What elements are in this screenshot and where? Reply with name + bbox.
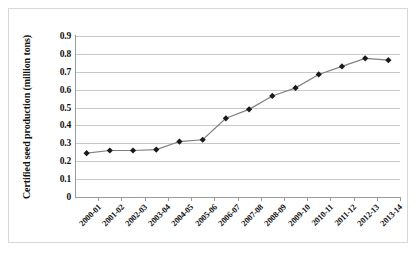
x-axis-tick-label: 2009-10	[285, 202, 311, 228]
x-axis-tick-label: 2007-08	[239, 202, 265, 228]
x-axis-tick-label: 2000-01	[77, 202, 103, 228]
y-axis-tick-label: 0.9	[60, 31, 71, 41]
x-axis-tick-label: 2006-07	[216, 202, 242, 228]
gridline	[75, 161, 400, 162]
x-axis-tick	[330, 197, 331, 201]
x-axis-tick	[261, 197, 262, 201]
y-axis-tick-label: 0	[66, 192, 71, 202]
y-axis-line	[75, 35, 76, 198]
x-axis-tick-label: 2012-13	[355, 202, 381, 228]
gridline	[75, 90, 400, 91]
gridline	[75, 108, 400, 109]
x-axis-tick-label: 2003-04	[146, 202, 172, 228]
gridline	[75, 54, 400, 55]
x-axis-tick-label: 2004-05	[169, 202, 195, 228]
x-axis-tick	[354, 197, 355, 201]
y-axis-tick-label: 0.8	[60, 49, 71, 59]
gridline	[75, 179, 400, 180]
x-axis-tick	[191, 197, 192, 201]
y-axis-tick-label: 0.3	[60, 138, 71, 148]
y-axis-tick-label: 0.7	[60, 67, 71, 77]
x-axis-tick-label: 2008-09	[262, 202, 288, 228]
x-axis-tick	[121, 197, 122, 201]
x-axis-tick	[284, 197, 285, 201]
chart-frame: Certified seed production (million tons)…	[8, 8, 408, 243]
x-axis-tick	[214, 197, 215, 201]
gridline	[75, 36, 400, 37]
y-axis-tick-labels: 00.10.20.30.40.50.60.70.80.9	[9, 9, 71, 254]
x-axis-tick-label: 2013-14	[378, 202, 404, 228]
x-axis-tick-label: 2001-02	[100, 202, 126, 228]
x-axis-tick-label: 2005-06	[193, 202, 219, 228]
y-axis-tick-label: 0.6	[60, 85, 71, 95]
x-axis-tick	[98, 197, 99, 201]
x-axis-tick	[377, 197, 378, 201]
y-axis-tick-label: 0.1	[60, 174, 71, 184]
y-axis-tick-label: 0.4	[60, 120, 71, 130]
x-axis-tick-label: 2010-11	[309, 202, 335, 228]
x-axis-tick	[168, 197, 169, 201]
x-axis-tick	[145, 197, 146, 201]
y-axis-tick-label: 0.5	[60, 103, 71, 113]
x-axis-tick-label: 2002-03	[123, 202, 149, 228]
y-axis-tick-label: 0.2	[60, 156, 71, 166]
x-axis-tick	[307, 197, 308, 201]
x-axis-tick	[400, 197, 401, 201]
x-axis-tick-label: 2011-12	[332, 202, 358, 228]
gridline	[75, 125, 400, 126]
gridline	[75, 72, 400, 73]
plot-area	[75, 36, 400, 197]
x-axis-tick	[238, 197, 239, 201]
gridline	[75, 143, 400, 144]
